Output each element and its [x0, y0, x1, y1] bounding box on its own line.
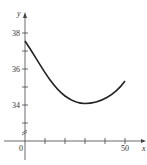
x-axis-arrow-icon — [141, 139, 146, 143]
origin-label: 0 — [19, 144, 23, 153]
y-tick-label-34: 34 — [12, 101, 20, 110]
x-axis-label: x — [141, 144, 146, 153]
y-tick-label-36: 36 — [12, 65, 20, 74]
data-curve — [25, 41, 125, 104]
chart: y x 38 36 34 0 50 — [0, 0, 147, 165]
y-axis-label: y — [16, 9, 21, 18]
y-tick-label-38: 38 — [12, 29, 20, 38]
axis-break-icon — [22, 130, 27, 135]
y-axis-arrow-icon — [23, 12, 27, 18]
x-tick-label-50: 50 — [121, 144, 129, 153]
